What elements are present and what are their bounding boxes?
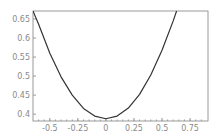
plot-frame <box>33 11 208 121</box>
x-tick-label: -0.5 <box>42 124 58 133</box>
x-tick-label: 0.75 <box>181 124 199 133</box>
y-tick-label: 0.5 <box>17 72 30 81</box>
y-tick-label: 0.45 <box>12 91 30 100</box>
x-tick-label: 0.5 <box>156 124 169 133</box>
y-axis-ticks: 0.40.450.50.550.60.65 <box>12 15 36 119</box>
x-tick-label: 0.25 <box>125 124 143 133</box>
data-line <box>33 11 177 119</box>
x-tick-label: 0 <box>103 124 108 133</box>
x-axis-ticks: -0.5-0.2500.250.50.75 <box>39 118 202 133</box>
y-tick-label: 0.4 <box>17 110 30 119</box>
y-tick-label: 0.55 <box>12 53 30 62</box>
y-tick-label: 0.6 <box>17 34 30 43</box>
chart: -0.5-0.2500.250.50.75 0.40.450.50.550.60… <box>0 0 217 136</box>
y-tick-label: 0.65 <box>12 15 30 24</box>
x-tick-label: -0.25 <box>68 124 89 133</box>
